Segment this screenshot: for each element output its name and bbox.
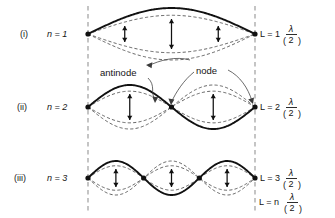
paren-close-1: ) [298,36,301,46]
row-roman-2: (ii) [17,102,27,112]
paren-open-general: ( [284,204,287,214]
equation-lhs-3: L = 3 [260,173,280,183]
lambda-general: λ [289,192,294,202]
row-roman-1: (i) [20,29,28,39]
equation-lhs-general: L = n [259,197,279,207]
denominator-3: 2 [288,179,293,189]
row-mode-2: n = 2 [47,102,67,112]
paren-close-3: ) [298,180,301,190]
node-dot-1-1 [85,31,90,36]
node-dot-3-1 [85,175,90,180]
antinode-label: antinode [100,67,136,78]
node-dot-1-2 [252,31,257,36]
node-label: node [196,65,217,76]
node-dot-2-1 [85,104,90,109]
row-mode-3: n = 3 [47,173,67,183]
lambda-1: λ [288,24,293,34]
paren-open-3: ( [283,180,286,190]
node-dot-3-3 [197,175,202,180]
paren-open-1: ( [283,36,286,46]
node-dot-2-3 [252,104,257,109]
paren-open-2: ( [283,109,286,119]
denominator-2: 2 [288,108,293,118]
node-dot-3-4 [252,175,257,180]
paren-close-general: ) [299,204,302,214]
row-mode-1: n = 1 [47,29,67,39]
denominator-general: 2 [289,203,294,213]
lambda-3: λ [288,168,293,178]
paren-close-2: ) [298,109,301,119]
standing-wave-diagram: (i) n = 1 (ii) n = 2 (iii) n = 3 L = 1 (… [0,0,335,218]
lambda-2: λ [288,97,293,107]
row-roman-3: (iii) [14,173,26,183]
node-dot-3-2 [141,175,146,180]
equation-lhs-1: L = 1 [260,29,280,39]
node-dot-2-2 [169,104,174,109]
equation-lhs-2: L = 2 [260,102,280,112]
denominator-1: 2 [288,35,293,45]
